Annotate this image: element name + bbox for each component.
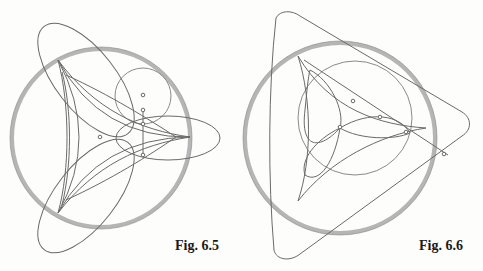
figure-6-5 xyxy=(10,8,220,268)
point xyxy=(442,152,446,156)
point xyxy=(404,130,408,134)
point xyxy=(378,115,382,119)
figures-canvas xyxy=(0,0,483,271)
ellipse-top xyxy=(20,8,151,152)
point xyxy=(141,122,145,126)
rolling-circle-center xyxy=(141,93,145,97)
figure-caption-6-5: Fig. 6.5 xyxy=(175,238,219,254)
point xyxy=(351,99,355,103)
figure-6-6 xyxy=(243,12,470,259)
outer-circle xyxy=(245,43,435,233)
inner-circle xyxy=(298,61,412,175)
point xyxy=(141,153,145,157)
figure-caption-6-6: Fig. 6.6 xyxy=(419,238,463,254)
ellipse-bottom xyxy=(20,124,151,268)
point xyxy=(98,135,102,139)
point xyxy=(141,108,145,112)
point xyxy=(338,125,342,129)
